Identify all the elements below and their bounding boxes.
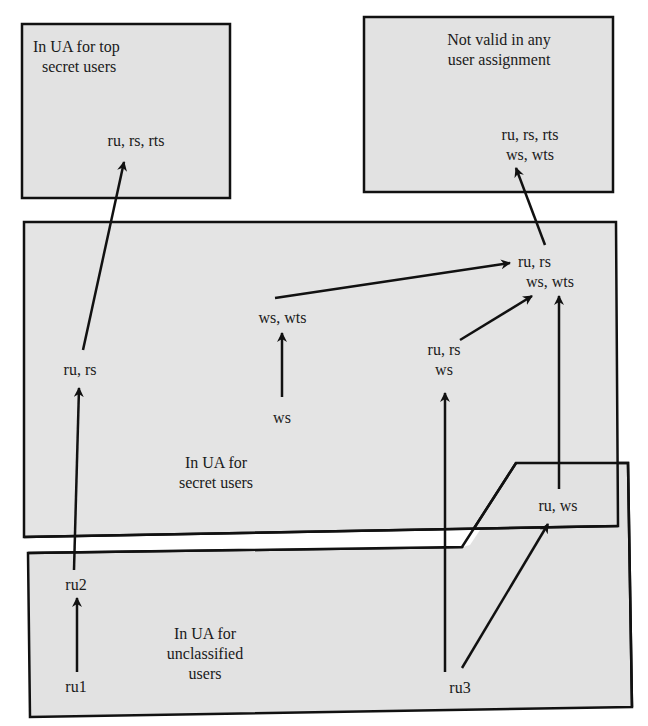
node-ru1-label: ru1: [56, 677, 96, 697]
node-ws-wts: ws, wts: [240, 308, 325, 328]
node-ru1: ru1: [56, 677, 96, 697]
region-not-valid-title-line1: Not valid in any: [419, 30, 579, 50]
node-ru3: ru3: [440, 678, 480, 698]
node-ru-rs-ws-line2: ws: [414, 360, 474, 380]
node-ru2: ru2: [56, 575, 96, 595]
node-ru-rs-label: ru, rs: [50, 360, 110, 380]
node-not-valid-all-line1: ru, rs, rts: [470, 125, 590, 145]
node-ws: ws: [262, 408, 302, 428]
region-top-secret-title: In UA for top secret users: [33, 37, 120, 77]
node-ru-rs-ws: ru, rs ws: [414, 340, 474, 380]
node-ru2-label: ru2: [56, 575, 96, 595]
node-ru-rs-ws-wts-line2: ws, wts: [510, 272, 590, 292]
region-not-valid-title: Not valid in any user assignment: [419, 30, 579, 70]
node-ru-rs-rts: ru, rs, rts: [86, 131, 186, 151]
node-ru-ws: ru, ws: [528, 496, 588, 516]
node-ru-rs-rts-label: ru, rs, rts: [86, 131, 186, 151]
region-top-secret-title-line2: secret users: [33, 57, 120, 77]
node-ru-rs: ru, rs: [50, 360, 110, 380]
node-not-valid-all: ru, rs, rts ws, wts: [470, 125, 590, 165]
region-unclassified-title-line2: unclassified: [155, 644, 255, 664]
node-ru3-label: ru3: [440, 678, 480, 698]
region-unclassified-title-line1: In UA for: [155, 624, 255, 644]
region-unclassified-title: In UA for unclassified users: [155, 624, 255, 684]
region-top-secret-title-line1: In UA for top: [33, 37, 120, 57]
node-ru-rs-ws-wts-line1: ru, rs: [510, 252, 590, 272]
node-not-valid-all-line2: ws, wts: [470, 145, 590, 165]
node-ru-rs-ws-wts: ru, rs ws, wts: [510, 252, 590, 292]
node-ru-ws-label: ru, ws: [528, 496, 588, 516]
node-ru-rs-ws-line1: ru, rs: [414, 340, 474, 360]
node-ws-wts-label: ws, wts: [240, 308, 325, 328]
region-secret-title-line2: secret users: [156, 473, 276, 493]
region-unclassified-title-line3: users: [155, 664, 255, 684]
region-secret-title-line1: In UA for: [156, 453, 276, 473]
region-not-valid-title-line2: user assignment: [419, 50, 579, 70]
node-ws-label: ws: [262, 408, 302, 428]
region-secret-title: In UA for secret users: [156, 453, 276, 493]
